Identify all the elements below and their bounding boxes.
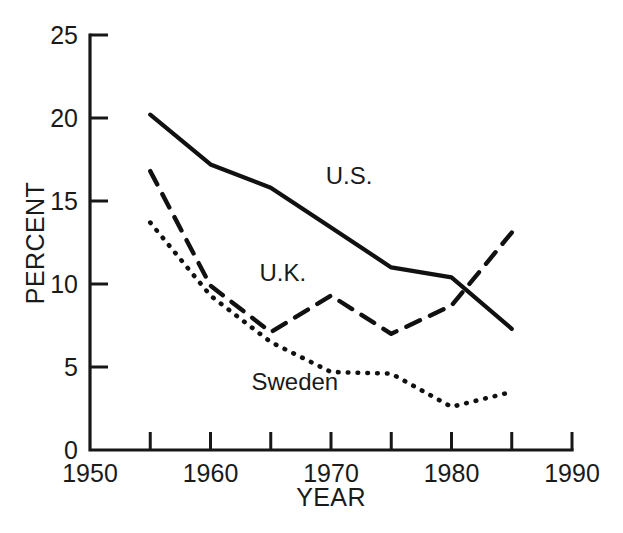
y-tick-label: 25 — [50, 21, 78, 49]
y-tick-label: 20 — [50, 104, 78, 132]
series-line-uk — [150, 171, 512, 334]
y-axis-title: PERCENT — [21, 182, 49, 304]
chart-series-group — [150, 115, 512, 407]
chart-axes: 0510152025 19501960197019801990 — [50, 21, 600, 487]
series-label-us: U.S. — [326, 162, 373, 189]
y-tick-label: 5 — [64, 353, 78, 381]
x-tick-label: 1990 — [544, 459, 600, 487]
line-chart: 0510152025 19501960197019801990 U.S.U.K.… — [0, 0, 623, 533]
series-label-sweden: Sweden — [251, 368, 338, 395]
y-axis-tick-labels: 0510152025 — [50, 21, 78, 464]
x-axis-ticks — [150, 432, 572, 450]
series-label-uk: U.K. — [259, 259, 306, 286]
chart-figure: 0510152025 19501960197019801990 U.S.U.K.… — [0, 0, 623, 533]
x-tick-label: 1980 — [424, 459, 480, 487]
y-axis-ticks — [90, 35, 108, 367]
y-tick-label: 10 — [50, 270, 78, 298]
x-axis-title: YEAR — [296, 483, 366, 511]
y-tick-label: 15 — [50, 187, 78, 215]
x-tick-label: 1960 — [183, 459, 239, 487]
x-tick-label: 1950 — [62, 459, 118, 487]
